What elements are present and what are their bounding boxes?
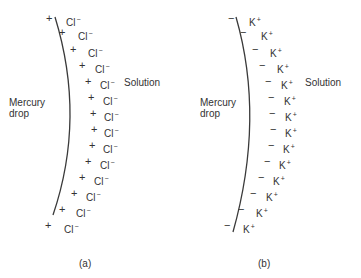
ion-symbol: Cl <box>76 208 85 219</box>
ion-symbol: K <box>283 144 290 155</box>
ion-symbol: K <box>266 192 273 203</box>
solution-ion-label: K+ <box>266 189 278 203</box>
ion-charge: + <box>281 175 285 182</box>
ion-symbol: K <box>249 17 256 28</box>
ion-charge: + <box>278 47 282 54</box>
ion-symbol: Cl <box>95 64 104 75</box>
ion-symbol: Cl <box>94 176 103 187</box>
solution-ion-label: Cl− <box>100 157 115 171</box>
solution-ion-label: Cl− <box>76 205 91 219</box>
electrode-charge-sign: − <box>270 124 276 135</box>
ion-charge: − <box>76 16 80 23</box>
ion-charge: − <box>105 63 109 70</box>
ion-charge: − <box>74 223 78 230</box>
solution-ion-label: Cl− <box>94 173 109 187</box>
electrode-charge-sign: − <box>265 76 271 87</box>
ion-charge: + <box>291 143 295 150</box>
ion-charge: − <box>110 159 114 166</box>
ion-charge: + <box>251 223 255 230</box>
electrode-charge-sign: + <box>89 140 95 151</box>
solution-ion-label: K+ <box>285 125 297 139</box>
ion-symbol: Cl <box>86 192 95 203</box>
electrode-charge-sign: − <box>224 220 230 231</box>
electrode-charge-sign: + <box>79 60 85 71</box>
solution-ion-label: K+ <box>261 28 273 42</box>
ion-symbol: K <box>243 224 250 235</box>
ion-symbol: K <box>281 80 288 91</box>
solution-ion-label: Cl− <box>95 61 110 75</box>
mercury-label-line1: Mercury <box>200 97 236 108</box>
mercury-surface-curve-b <box>233 17 250 232</box>
ion-charge: + <box>293 127 297 134</box>
solution-ion-label: K+ <box>284 93 296 107</box>
ion-symbol: Cl <box>64 224 73 235</box>
electrode-charge-sign: − <box>264 156 270 167</box>
electrode-charge-sign: + <box>79 172 85 183</box>
solution-ion-label: Cl− <box>104 109 119 123</box>
ion-charge: + <box>293 111 297 118</box>
solution-ion-label: K+ <box>270 45 282 59</box>
ion-symbol: Cl <box>104 128 113 139</box>
ion-charge: − <box>86 207 90 214</box>
electrode-charge-sign: + <box>70 44 76 55</box>
solution-ion-label: Cl− <box>88 45 103 59</box>
ion-charge: + <box>287 159 291 166</box>
ion-symbol: Cl <box>88 48 97 59</box>
ion-charge: + <box>269 30 273 37</box>
ion-charge: − <box>104 175 108 182</box>
ion-charge: − <box>98 47 102 54</box>
ion-charge: − <box>114 111 118 118</box>
mercury-label-line1: Mercury <box>9 97 45 108</box>
ion-charge: − <box>113 95 117 102</box>
electrode-charge-sign: − <box>269 108 275 119</box>
ion-symbol: Cl <box>66 17 75 28</box>
solution-label-b: Solution <box>305 77 341 88</box>
mercury-label-line2: drop <box>9 108 45 119</box>
ion-charge: + <box>292 95 296 102</box>
solution-ion-label: K+ <box>283 141 295 155</box>
electrode-charge-sign: + <box>85 76 91 87</box>
electrode-charge-sign: − <box>250 188 256 199</box>
ion-symbol: K <box>277 64 284 75</box>
electrode-charge-sign: + <box>91 124 97 135</box>
solution-ion-label: Cl− <box>103 93 118 107</box>
ion-symbol: K <box>285 112 292 123</box>
ion-charge: + <box>257 16 261 23</box>
ion-charge: − <box>114 127 118 134</box>
ion-charge: − <box>113 143 117 150</box>
solution-ion-label: K+ <box>279 157 291 171</box>
ion-symbol: K <box>256 208 263 219</box>
ion-symbol: Cl <box>103 144 112 155</box>
ion-symbol: K <box>285 128 292 139</box>
solution-ion-label: Cl− <box>78 28 93 42</box>
solution-label-a: Solution <box>124 77 160 88</box>
ion-symbol: K <box>270 48 277 59</box>
ion-symbol: Cl <box>78 31 87 42</box>
electrode-charge-sign: − <box>240 27 246 38</box>
electrode-charge-sign: + <box>59 27 65 38</box>
ion-charge: + <box>274 191 278 198</box>
electrode-charge-sign: + <box>71 188 77 199</box>
solution-ion-label: Cl− <box>66 14 81 28</box>
ion-charge: − <box>88 30 92 37</box>
caption-b: (b) <box>258 258 270 269</box>
mercury-surface-curve-a <box>53 17 70 215</box>
ion-charge: + <box>289 79 293 86</box>
solution-ion-label: K+ <box>273 173 285 187</box>
ion-symbol: K <box>273 176 280 187</box>
solution-ion-label: K+ <box>256 205 268 219</box>
solution-ion-label: K+ <box>281 77 293 91</box>
electrode-charge-sign: − <box>259 60 265 71</box>
mercury-drop-label-b: Mercury drop <box>200 97 236 119</box>
ion-symbol: Cl <box>104 112 113 123</box>
ion-charge: − <box>110 79 114 86</box>
figure-canvas <box>0 0 361 278</box>
mercury-drop-label-a: Mercury drop <box>9 97 45 119</box>
caption-a: (a) <box>79 258 91 269</box>
electrode-charge-sign: − <box>228 13 234 24</box>
solution-ion-label: Cl− <box>103 141 118 155</box>
electrode-charge-sign: − <box>238 204 244 215</box>
electrode-charge-sign: + <box>88 92 94 103</box>
ion-symbol: Cl <box>100 80 109 91</box>
ion-symbol: Cl <box>100 160 109 171</box>
